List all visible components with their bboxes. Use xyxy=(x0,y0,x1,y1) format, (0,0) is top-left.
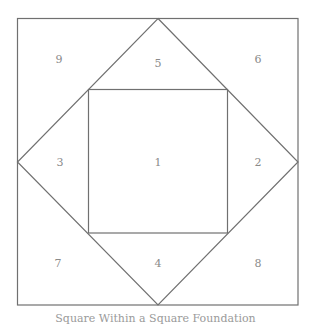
piece-label-9: 9 xyxy=(56,54,63,65)
piece-label-2: 2 xyxy=(255,157,262,168)
piece-label-3: 3 xyxy=(57,157,64,168)
piece-label-1: 1 xyxy=(155,157,162,168)
piece-label-4: 4 xyxy=(155,258,162,269)
diagram-caption: Square Within a Square Foundation xyxy=(0,312,311,326)
piece-label-8: 8 xyxy=(255,258,262,269)
piece-label-7: 7 xyxy=(55,258,62,269)
piece-label-6: 6 xyxy=(255,54,262,65)
piece-label-5: 5 xyxy=(155,58,162,69)
